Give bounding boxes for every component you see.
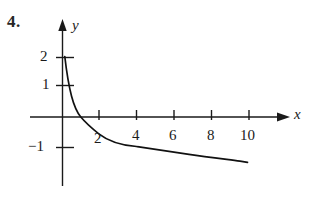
x-tick-label-2: 2 [94, 131, 102, 146]
x-tick-label-6: 6 [169, 128, 177, 143]
function-curve [65, 57, 248, 163]
y-axis-arrow-icon [58, 19, 66, 31]
figure-container: 4. 2 1 −1 2 4 6 8 10 y x [0, 0, 317, 198]
x-tick-label-8: 8 [207, 128, 215, 143]
x-tick-label-4: 4 [132, 128, 140, 143]
x-axis-arrow-icon [277, 113, 290, 122]
y-tick-label-2: 2 [40, 49, 48, 64]
y-tick-label-1: 1 [42, 77, 50, 92]
y-axis-label: y [72, 18, 79, 33]
graph-plot [0, 0, 317, 198]
x-axis-label: x [294, 107, 301, 122]
y-tick-label-minus-1: −1 [28, 139, 44, 154]
x-tick-label-10: 10 [240, 128, 255, 143]
